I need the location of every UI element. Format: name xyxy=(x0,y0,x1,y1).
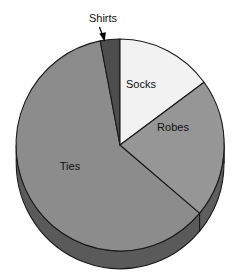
pie-slice-label-socks: Socks xyxy=(126,78,156,90)
pie-chart: Socks Robes Ties Shirts xyxy=(0,0,243,275)
pie-slice-label-ties: Ties xyxy=(60,160,81,172)
pie-chart-canvas: Socks Robes Ties Shirts xyxy=(0,0,243,275)
pie-top-surface-group xyxy=(16,39,224,251)
shirts-callout-group: Shirts xyxy=(89,12,118,42)
pie-slice-label-shirts: Shirts xyxy=(89,12,118,24)
pie-slice-label-robes: Robes xyxy=(157,121,189,133)
